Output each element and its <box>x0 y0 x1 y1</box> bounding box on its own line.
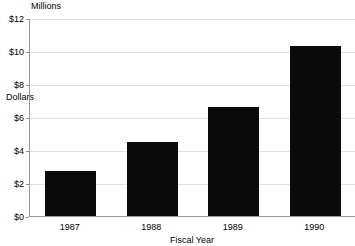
x-tick-label: 1988 <box>111 222 193 232</box>
bar <box>45 171 96 216</box>
y-tick-mark <box>26 52 29 53</box>
plot-area <box>29 19 355 217</box>
y-tick-label: $0 <box>0 212 24 222</box>
x-tick-label: 1990 <box>274 222 355 232</box>
y-tick-mark <box>26 85 29 86</box>
chart-unit-caption: Millions <box>31 1 61 11</box>
y-tick-mark <box>26 217 29 218</box>
y-tick-label: $12 <box>0 14 24 24</box>
y-tick-label: $6 <box>0 113 24 123</box>
bar <box>208 107 259 216</box>
bar-chart: Millions Dollars $0$2$4$6$8$10$12 198719… <box>0 0 355 246</box>
y-tick-mark <box>26 151 29 152</box>
bar <box>127 142 178 216</box>
y-tick-mark <box>26 19 29 20</box>
x-axis-title: Fiscal Year <box>29 235 355 245</box>
y-tick-label: $2 <box>0 179 24 189</box>
x-tick-label: 1987 <box>29 222 111 232</box>
bar <box>290 46 341 216</box>
gridline <box>30 19 355 20</box>
y-tick-mark <box>26 184 29 185</box>
y-tick-label: $8 <box>0 80 24 90</box>
y-tick-label: $10 <box>0 47 24 57</box>
y-tick-mark <box>26 118 29 119</box>
x-tick-label: 1989 <box>192 222 274 232</box>
y-tick-label: $4 <box>0 146 24 156</box>
